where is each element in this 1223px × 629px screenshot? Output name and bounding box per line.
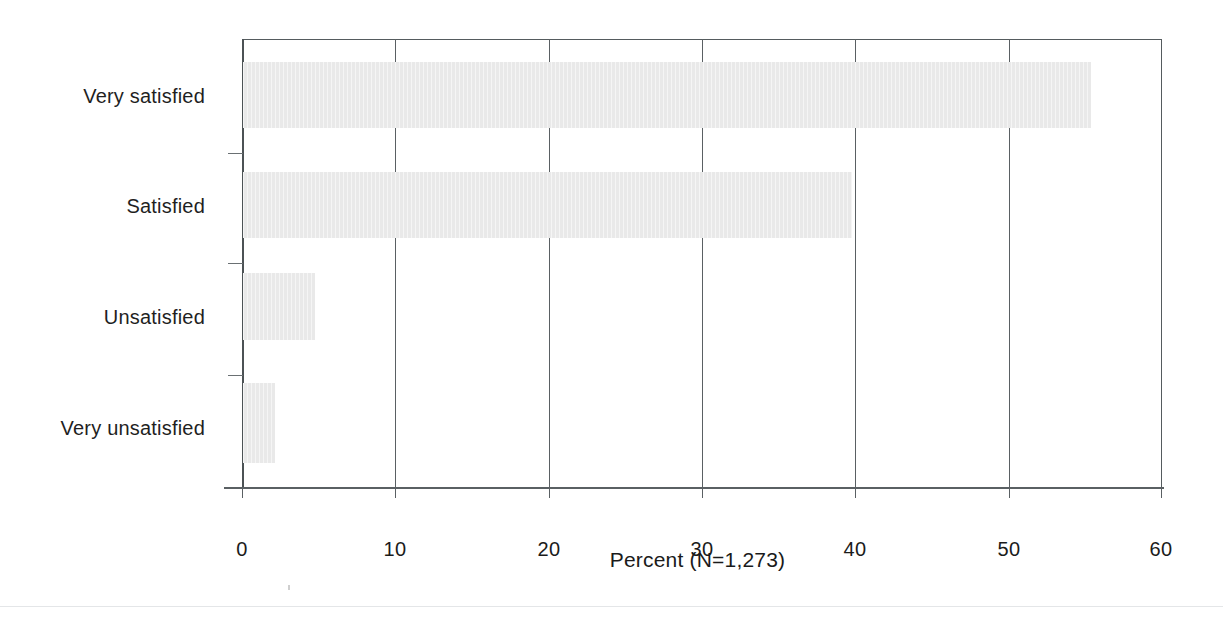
x-axis-tick-60 [1161,487,1162,498]
category-label-unsatisfied: Unsatisfied [0,306,205,329]
x-axis-title-text: Percent (N=1,273) [610,548,786,572]
x-axis-tick-50 [1009,487,1010,498]
bar-satisfied [243,172,852,238]
category-label-very-unsatisfied: Very unsatisfied [0,417,205,440]
plot-frame-right [1161,39,1162,488]
page-edge-line [0,606,1223,607]
x-axis-tick-40 [855,487,856,498]
bar-chart-figure: 0 10 20 30 40 50 60 Very satisfied Satis… [0,0,1223,629]
x-axis-tick-30 [702,487,703,498]
x-axis-line [224,487,1164,489]
bar-very-satisfied [243,62,1091,128]
x-axis-tick-20 [549,487,550,498]
category-label-very-satisfied: Very satisfied [0,85,205,108]
y-axis-tick-1 [228,153,243,154]
category-label-satisfied: Satisfied [0,195,205,218]
x-axis-title: Percent (N=1,273) [0,548,1223,572]
y-axis-tick-2 [228,263,243,264]
x-axis-tick-0 [242,487,243,498]
plot-area: 0 10 20 30 40 50 60 [242,39,1162,488]
bar-very-unsatisfied [243,383,275,463]
x-axis-tick-10 [395,487,396,498]
scan-speck [288,585,290,590]
bar-unsatisfied [243,273,315,340]
y-axis-tick-3 [228,375,243,376]
